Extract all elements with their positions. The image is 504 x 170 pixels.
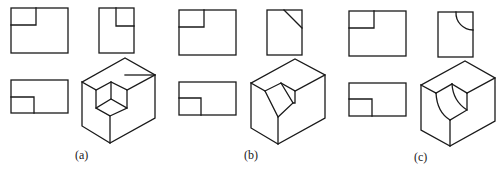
panel-c-label: (c) (414, 150, 427, 165)
panel-b-front-view (179, 10, 236, 55)
panel-a-top-view (11, 80, 68, 113)
panel-b-side-view (267, 10, 302, 55)
panel-c-top-view (349, 83, 406, 116)
panel-b-label: (b) (244, 148, 258, 163)
panel-b-top-view (179, 82, 236, 115)
panel-a-front-view (11, 8, 68, 53)
orthographic-projection-figure (0, 0, 504, 170)
panel-a (11, 8, 155, 143)
panel-b-isometric-view (251, 59, 325, 144)
panel-c-isometric-view (421, 61, 495, 146)
panel-c (349, 11, 495, 146)
panel-c-front-view (349, 11, 406, 56)
panel-b (179, 10, 325, 144)
panel-c-side-view (438, 12, 473, 57)
panel-a-label: (a) (75, 148, 88, 163)
panel-a-isometric-view (82, 58, 155, 143)
panel-a-side-view (99, 8, 134, 53)
